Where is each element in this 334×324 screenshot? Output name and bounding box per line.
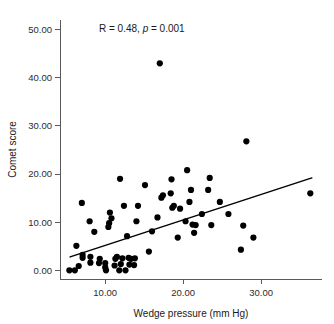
data-point: [79, 200, 85, 206]
data-point: [160, 192, 166, 198]
data-point: [131, 262, 137, 268]
data-point: [142, 182, 148, 188]
data-point: [171, 203, 177, 209]
data-point: [122, 267, 128, 273]
chart-figure: 0.0010.0020.0030.0040.0050.0010.0020.003…: [0, 0, 334, 324]
data-point: [119, 255, 125, 261]
data-point: [208, 222, 214, 228]
y-tick-label-4: 40.00: [28, 72, 52, 83]
data-point: [107, 209, 113, 215]
data-point: [66, 267, 72, 273]
data-point: [111, 262, 117, 268]
data-point: [184, 167, 190, 173]
x-axis-title: Wedge pressure (mm Hg): [134, 308, 249, 319]
data-point: [217, 199, 223, 205]
data-point: [116, 267, 122, 273]
data-point: [193, 222, 199, 228]
data-point: [177, 206, 183, 212]
data-point: [87, 218, 93, 224]
data-point: [240, 222, 246, 228]
data-point: [103, 267, 109, 273]
data-point: [168, 190, 174, 196]
data-point: [182, 218, 188, 224]
x-tick-label-0: 10.00: [93, 287, 117, 298]
data-point: [73, 243, 79, 249]
data-point: [87, 260, 93, 266]
data-point: [225, 211, 231, 217]
y-tick-label-0: 0.00: [34, 265, 53, 276]
data-point: [76, 263, 82, 269]
scatter-plot-canvas: 0.0010.0020.0030.0040.0050.0010.0020.003…: [0, 0, 334, 324]
data-point: [146, 248, 152, 254]
data-point: [124, 233, 130, 239]
x-tick-label-2: 30.00: [249, 287, 273, 298]
y-axis-title: Comet score: [7, 121, 18, 178]
data-point: [199, 211, 205, 217]
data-point: [133, 218, 139, 224]
data-point: [80, 252, 86, 258]
data-point: [186, 199, 192, 205]
data-point: [87, 254, 93, 260]
axis-spines: [61, 20, 323, 280]
data-point: [118, 261, 124, 267]
data-point: [175, 234, 181, 240]
data-point: [91, 229, 97, 235]
y-tick-label-2: 20.00: [28, 168, 52, 179]
data-point: [205, 187, 211, 193]
data-point: [135, 203, 141, 209]
data-point: [238, 247, 244, 253]
data-point: [157, 60, 163, 66]
data-point: [168, 176, 174, 182]
data-point: [102, 260, 108, 266]
data-point: [207, 175, 213, 181]
data-point: [117, 176, 123, 182]
data-point: [154, 214, 160, 220]
data-point: [114, 254, 120, 260]
data-point: [149, 228, 155, 234]
data-point: [191, 230, 197, 236]
y-tick-label-3: 30.00: [28, 120, 52, 131]
data-point: [97, 256, 103, 262]
x-tick-label-1: 20.00: [171, 287, 195, 298]
data-point: [132, 255, 138, 261]
data-point: [121, 203, 127, 209]
data-point: [307, 190, 313, 196]
data-point: [108, 215, 114, 221]
data-point: [250, 234, 256, 240]
y-tick-label-5: 50.00: [28, 24, 52, 35]
series-comet-score-vs-wedge-pressure: [66, 60, 313, 273]
y-tick-label-1: 10.00: [28, 217, 52, 228]
correlation-annotation: R = 0.48, p = 0.001: [99, 23, 185, 34]
data-point: [243, 138, 249, 144]
data-point: [188, 187, 194, 193]
